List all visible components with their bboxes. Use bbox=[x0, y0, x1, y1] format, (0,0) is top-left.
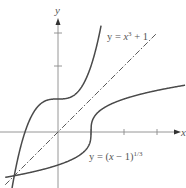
cube-root-curve bbox=[5, 85, 185, 177]
identity-line bbox=[5, 33, 157, 185]
cubic-equation-label: y = x3 + 1 bbox=[107, 30, 148, 42]
y-axis-arrow-icon bbox=[56, 18, 61, 25]
y-axis-label: y bbox=[54, 4, 60, 16]
x-axis-arrow-icon bbox=[174, 130, 181, 135]
inverse-functions-diagram: x y y = x3 + 1 y = (x − 1)1/3 bbox=[0, 0, 186, 188]
cubic-curve bbox=[11, 26, 101, 188]
x-axis-label: x bbox=[180, 126, 186, 138]
cube-root-equation-label: y = (x − 1)1/3 bbox=[89, 150, 143, 163]
